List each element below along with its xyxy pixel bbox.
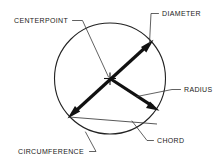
circle-terminology-diagram: CENTERPOINT DIAMETER RADIUS CHORD CIRCUM… — [0, 0, 221, 168]
label-diameter: DIAMETER — [162, 10, 201, 17]
centerpoint-leader-line — [73, 21, 109, 78]
label-chord: CHORD — [157, 137, 184, 144]
label-radius: RADIUS — [184, 86, 213, 93]
label-circumference: CIRCUMFERENCE — [18, 148, 84, 155]
diameter-leader-line — [150, 14, 159, 44]
chord-line — [69, 117, 157, 124]
radius-leader-line — [137, 90, 181, 97]
diagram-canvas: CENTERPOINT DIAMETER RADIUS CHORD CIRCUM… — [0, 0, 221, 168]
circumference-leader-line — [86, 132, 97, 152]
label-centerpoint: CENTERPOINT — [14, 17, 68, 24]
radius-line — [110, 79, 153, 107]
